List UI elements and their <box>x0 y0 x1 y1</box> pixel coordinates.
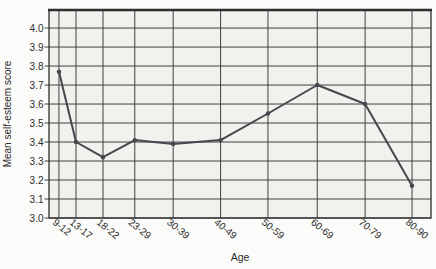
y-tick-label: 3.6 <box>30 99 44 110</box>
data-point-marker <box>315 83 319 87</box>
data-point-marker <box>74 140 78 144</box>
data-point-marker <box>171 142 175 146</box>
y-axis-title: Mean self-esteem score <box>2 60 13 167</box>
y-tick-label: 3.0 <box>30 213 44 224</box>
data-point-marker <box>101 155 105 159</box>
data-point-marker <box>218 138 222 142</box>
x-axis-title: Age <box>231 251 250 263</box>
chart-canvas: 3.03.13.23.33.43.53.63.73.83.94.0 9-1213… <box>0 0 436 269</box>
y-tick-label: 3.8 <box>30 61 44 72</box>
y-tick-label: 3.1 <box>30 194 44 205</box>
data-point-marker <box>266 111 270 115</box>
self-esteem-age-line-chart: 3.03.13.23.33.43.53.63.73.83.94.0 9-1213… <box>0 0 436 269</box>
y-tick-label: 3.5 <box>30 118 44 129</box>
y-tick-label: 3.2 <box>30 175 44 186</box>
data-point-marker <box>133 138 137 142</box>
y-tick-label: 3.4 <box>30 137 44 148</box>
y-tick-label: 4.0 <box>30 23 44 34</box>
data-point-marker <box>57 70 61 74</box>
data-point-marker <box>363 102 367 106</box>
data-point-marker <box>410 184 414 188</box>
y-tick-label: 3.3 <box>30 156 44 167</box>
y-tick-label: 3.9 <box>30 42 44 53</box>
y-tick-label: 3.7 <box>30 80 44 91</box>
plot-area <box>49 10 431 218</box>
